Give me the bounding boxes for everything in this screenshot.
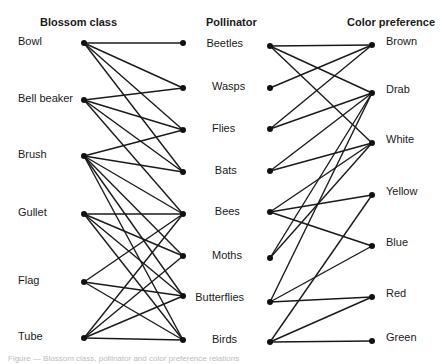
node-pollinator-out-beetles: [267, 43, 273, 49]
label-color-green: Green: [386, 331, 417, 343]
node-color-white: [369, 140, 375, 146]
label-blossom-bell-beaker: Bell beaker: [18, 92, 73, 104]
label-pollinator-bats: Bats: [215, 164, 237, 176]
node-blossom-bell-beaker: [81, 97, 87, 103]
figure-caption: Figure — Blossom class, pollinator and c…: [8, 354, 239, 363]
node-pollinator-in-moths: [180, 253, 186, 259]
node-pollinator-in-bats: [180, 169, 186, 175]
node-blossom-bowl: [81, 40, 87, 46]
label-pollinator-birds: Birds: [212, 333, 237, 345]
node-pollinator-out-wasps: [267, 85, 273, 91]
link-bees-white: [270, 143, 372, 212]
link-butterflies-red: [270, 297, 372, 302]
node-color-blue: [369, 243, 375, 249]
label-color-white: White: [386, 133, 414, 145]
node-pollinator-out-butterflies: [267, 299, 273, 305]
label-pollinator-beetles: Beetles: [206, 37, 243, 49]
link-tube-birds: [84, 338, 183, 340]
link-birds-green: [270, 341, 372, 342]
label-blossom-tube: Tube: [18, 330, 43, 342]
link-beetles-white: [270, 46, 372, 143]
link-beetles-brown: [270, 45, 372, 46]
node-pollinator-out-bats: [267, 168, 273, 174]
node-pollinator-in-flies: [180, 127, 186, 133]
link-bell-beaker-wasps: [84, 88, 183, 100]
label-color-blue: Blue: [386, 236, 408, 248]
label-color-brown: Brown: [386, 35, 417, 47]
node-pollinator-out-moths: [267, 255, 273, 261]
label-color-red: Red: [386, 287, 406, 299]
link-gullet-moths: [84, 214, 183, 256]
node-blossom-tube: [81, 335, 87, 341]
node-pollinator-in-butterflies: [180, 293, 186, 299]
link-bell-beaker-bats: [84, 100, 183, 172]
link-wasps-brown: [270, 45, 372, 88]
label-pollinator-bees: Bees: [215, 205, 240, 217]
label-blossom-bowl: Bowl: [18, 35, 42, 47]
node-pollinator-in-birds: [180, 337, 186, 343]
label-color-drab: Drab: [386, 83, 410, 95]
node-blossom-flag: [81, 279, 87, 285]
link-bats-white: [270, 143, 372, 171]
label-blossom-brush: Brush: [18, 148, 47, 160]
node-pollinator-out-bees: [267, 209, 273, 215]
node-color-yellow: [369, 192, 375, 198]
node-pollinator-in-wasps: [180, 85, 186, 91]
node-color-green: [369, 338, 375, 344]
label-pollinator-flies: Flies: [212, 122, 235, 134]
link-beetles-drab: [270, 46, 372, 93]
node-pollinator-out-flies: [267, 126, 273, 132]
label-pollinator-butterflies: Butterflies: [195, 291, 244, 303]
link-bell-beaker-flies: [84, 100, 183, 130]
node-color-brown: [369, 42, 375, 48]
label-pollinator-moths: Moths: [212, 249, 242, 261]
link-tube-moths: [84, 256, 183, 338]
label-pollinator-wasps: Wasps: [212, 80, 245, 92]
link-flag-bees: [84, 214, 183, 282]
link-flies-brown: [270, 45, 372, 129]
node-pollinator-in-beetles: [180, 40, 186, 46]
link-butterflies-blue: [270, 246, 372, 302]
node-blossom-gullet: [81, 211, 87, 217]
node-color-red: [369, 294, 375, 300]
node-pollinator-in-bees: [180, 211, 186, 217]
label-blossom-flag: Flag: [18, 274, 39, 286]
link-moths-drab: [270, 93, 372, 258]
label-color-yellow: Yellow: [386, 185, 417, 197]
node-pollinator-out-birds: [267, 339, 273, 345]
relation-diagram: [0, 0, 444, 364]
link-bowl-wasps: [84, 43, 183, 88]
node-blossom-brush: [81, 153, 87, 159]
label-blossom-gullet: Gullet: [18, 206, 47, 218]
node-color-drab: [369, 90, 375, 96]
